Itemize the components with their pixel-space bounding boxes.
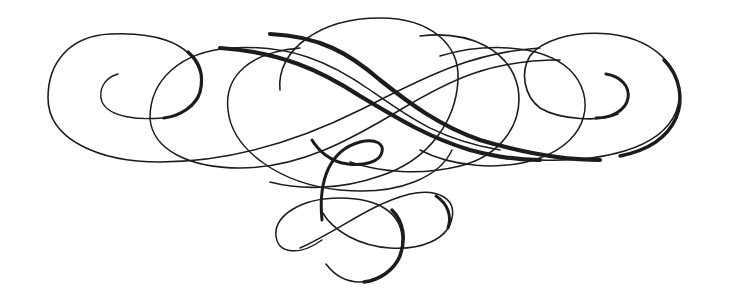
right-outer-thick-edge-stroke xyxy=(620,60,680,156)
right-inner-curl-stroke xyxy=(596,74,628,118)
center-small-curl-stroke xyxy=(312,140,382,220)
left-second-loop-lower-stroke xyxy=(150,60,560,168)
center-thick-s-2-stroke xyxy=(270,34,600,160)
calligraphic-flourish-ornament xyxy=(0,0,729,306)
bottom-left-loop-stroke xyxy=(276,198,402,282)
center-big-oval-stroke xyxy=(270,18,458,187)
left-second-loop-stroke xyxy=(150,47,500,150)
ornament-canvas xyxy=(0,0,729,306)
